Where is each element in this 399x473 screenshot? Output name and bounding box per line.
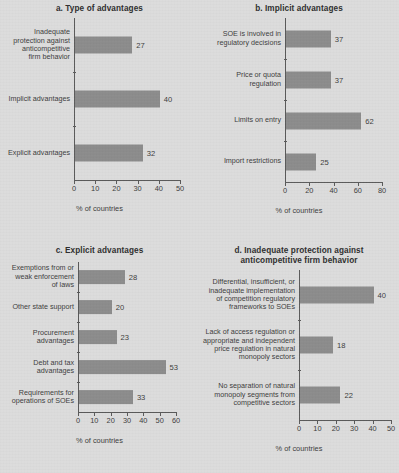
y-axis-tick: [77, 382, 81, 383]
category-label: Price or quotaregulation: [199, 71, 285, 88]
bar-value-label: 33: [137, 393, 145, 402]
category-label: Limits on entry: [199, 116, 285, 124]
plot-area: 37: [285, 18, 399, 59]
x-axis-tick-label: 40: [329, 186, 337, 195]
x-axis-tick: [143, 412, 144, 416]
bar-row: Lack of access regulation orappropriate …: [199, 320, 399, 370]
bar: [79, 270, 125, 284]
plot-area: 62: [285, 100, 399, 141]
plot-area: 22: [299, 370, 399, 420]
category-label-line: advantages: [0, 337, 74, 345]
panel-d-title-line: anticompetitive firm behavior: [205, 256, 393, 266]
bar-row: No separation of naturalmonopoly segment…: [199, 370, 399, 420]
bar-row: Limits on entry62: [199, 100, 399, 141]
x-axis-tick: [160, 412, 161, 416]
category-label: Lack of access regulation orappropriate …: [199, 328, 299, 362]
y-axis-tick: [77, 352, 81, 353]
bar-value-label: 25: [320, 157, 328, 166]
x-axis-tick: [382, 182, 383, 186]
x-axis-tick-label: 0: [72, 184, 76, 193]
figure-panel-grid: a. Type of advantages Inadequateprotecti…: [0, 0, 399, 473]
x-axis-tick: [317, 420, 318, 424]
category-label-line: advantages: [0, 367, 74, 375]
panel-a-rows: Inadequateprotection againstanticompetit…: [0, 18, 199, 180]
bar: [300, 337, 333, 354]
y-axis-tick: [77, 292, 81, 293]
panel-c-axis: 0102030405060: [0, 412, 199, 425]
x-axis-tick-label: 30: [350, 424, 358, 433]
x-axis-tick-label: 40: [155, 184, 163, 193]
x-axis-tick-label: 30: [123, 416, 131, 425]
x-axis-tick-label: 50: [156, 416, 164, 425]
x-axis-tick-label: 10: [91, 184, 99, 193]
category-label: SOE is involved inregulatory decisions: [199, 30, 285, 47]
x-axis-line: [74, 180, 180, 181]
bar-value-label: 32: [147, 149, 155, 158]
bar-row: Inadequateprotection againstanticompetit…: [0, 18, 199, 72]
category-label-line: regulatory decisions: [199, 39, 281, 47]
category-label-line: Import restrictions: [199, 157, 281, 165]
bar: [75, 145, 143, 162]
panel-a-type-of-advantages: a. Type of advantages Inadequateprotecti…: [0, 0, 199, 230]
x-axis-tick-label: 50: [387, 424, 395, 433]
bar: [79, 390, 133, 404]
x-axis-tick: [180, 180, 181, 184]
plot-area: 28: [78, 262, 199, 292]
panel-a-axis-title: % of countries: [0, 204, 199, 213]
panel-c-rows: Exemptions from orweak enforcementof law…: [0, 262, 199, 412]
bar: [300, 287, 374, 304]
y-axis-tick: [298, 370, 302, 371]
bar-value-label: 53: [170, 363, 178, 372]
bar: [286, 71, 331, 88]
plot-area: 53: [78, 352, 199, 382]
bar-value-label: 23: [121, 333, 129, 342]
y-axis-tick: [284, 59, 288, 60]
x-axis-line: [299, 420, 391, 421]
x-axis-tick-label: 0: [283, 186, 287, 195]
x-axis-tick: [336, 420, 337, 424]
category-label: Inadequateprotection againstanticompetit…: [0, 28, 74, 62]
panel-c-chart: Exemptions from orweak enforcementof law…: [0, 262, 199, 445]
x-axis-tick-label: 80: [378, 186, 386, 195]
bar-value-label: 27: [136, 41, 144, 50]
x-axis-tick-label: 40: [139, 416, 147, 425]
x-axis-tick: [94, 412, 95, 416]
bar: [79, 360, 166, 374]
bar-value-label: 28: [129, 273, 137, 282]
category-label-line: Implicit advantages: [0, 95, 70, 103]
bar: [286, 112, 361, 129]
plot-area: 32: [74, 126, 199, 180]
plot-area: 40: [299, 270, 399, 320]
plot-area: 37: [285, 59, 399, 100]
panel-d-title: d. Inadequate protection againstanticomp…: [199, 230, 399, 265]
x-axis-tick-label: 20: [112, 184, 120, 193]
bar-row: Requirements foroperations of SOEs33: [0, 382, 199, 412]
category-label-line: of laws: [0, 281, 74, 289]
x-axis-tick-label: 50: [176, 184, 184, 193]
bar-value-label: 18: [337, 341, 345, 350]
plot-area: 27: [74, 18, 199, 72]
x-axis-tick-label: 10: [90, 416, 98, 425]
category-label: Exemptions from orweak enforcementof law…: [0, 264, 78, 289]
panel-b-axis-title: % of countries: [199, 206, 399, 215]
category-label: Procurementadvantages: [0, 329, 78, 346]
panel-a-title: a. Type of advantages: [0, 0, 199, 14]
x-axis-tick-label: 20: [107, 416, 115, 425]
plot-area: 23: [78, 322, 199, 352]
plot-area: 20: [78, 292, 199, 322]
y-axis-tick: [298, 320, 302, 321]
x-axis-tick: [138, 180, 139, 184]
bar-row: SOE is involved inregulatory decisions37: [199, 18, 399, 59]
panel-b-chart: SOE is involved inregulatory decisions37…: [199, 18, 399, 215]
category-label-line: operations of SOEs: [0, 397, 74, 405]
x-axis-tick-label: 20: [305, 186, 313, 195]
bar-value-label: 20: [116, 303, 124, 312]
category-label-line: firm behavior: [0, 53, 70, 61]
x-axis-tick: [74, 180, 75, 184]
bar: [79, 330, 117, 344]
panel-b-axis: 020406080: [199, 182, 399, 195]
x-axis-tick-label: 60: [354, 186, 362, 195]
y-axis-tick: [284, 100, 288, 101]
bar: [300, 387, 340, 404]
bar-row: Debt and taxadvantages53: [0, 352, 199, 382]
